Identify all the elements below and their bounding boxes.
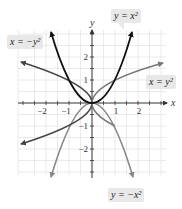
y-tick-label: 2: [84, 52, 89, 62]
label-x-eq-neg-y2: x = −y²: [7, 35, 43, 49]
x-tick-label: 2: [137, 106, 142, 116]
label-y-eq-x2: y = x²: [111, 9, 141, 23]
y-axis-label: y: [89, 17, 95, 28]
graph: −2 −1 1 2 2 1 −1 −2 x y: [0, 0, 182, 209]
x-tick-label: −2: [37, 106, 47, 116]
x-tick-label: 1: [114, 106, 119, 116]
y-tick-label: −2: [78, 144, 88, 154]
x-axis-label: x: [170, 97, 176, 108]
y-tick-label: 1: [84, 75, 89, 85]
label-x-eq-y2: x = y²: [146, 75, 176, 89]
y-tick-label: −1: [78, 121, 88, 131]
label-y-eq-neg-x2: y = −x²: [108, 188, 144, 202]
x-tick-label: −1: [61, 106, 71, 116]
label-pointer: [118, 23, 124, 30]
curve-y-eq-x2-left-ext: [51, 32, 69, 80]
